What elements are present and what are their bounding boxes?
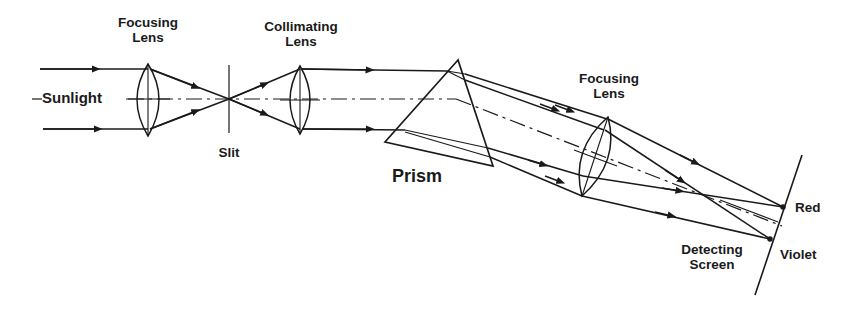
slit-label: Slit <box>208 146 250 161</box>
sunlight-label: Sunlight <box>42 90 102 106</box>
prism <box>385 60 493 166</box>
focusing-lens-1-label: Focusing Lens <box>108 16 188 45</box>
violet-label: Violet <box>780 248 817 263</box>
focusing-lens-2-label: Focusing Lens <box>564 72 654 101</box>
focused-rays <box>582 119 783 239</box>
red-point <box>781 205 785 209</box>
detecting-screen-label: Detecting Screen <box>662 243 762 272</box>
violet-point <box>768 237 772 241</box>
detecting-screen <box>755 155 802 295</box>
focusing-lens-2 <box>574 117 617 196</box>
prism-label: Prism <box>392 167 442 186</box>
collimating-lens-label: Collimating Lens <box>246 20 356 49</box>
red-label: Red <box>795 201 821 216</box>
